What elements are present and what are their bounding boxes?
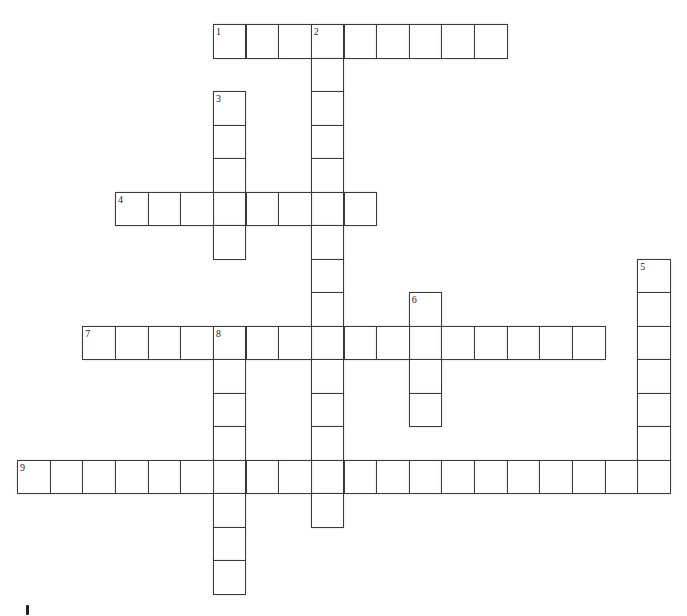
clue-number: 1 bbox=[216, 26, 221, 37]
crossword-cell[interactable] bbox=[344, 192, 378, 227]
crossword-cell[interactable] bbox=[213, 393, 247, 428]
crossword-cell[interactable]: 4 bbox=[115, 192, 149, 227]
crossword-cell[interactable] bbox=[376, 24, 410, 59]
crossword-cell[interactable] bbox=[311, 292, 345, 327]
crossword-cell[interactable] bbox=[507, 326, 541, 361]
crossword-cell[interactable] bbox=[637, 460, 671, 495]
clue-number: 4 bbox=[118, 194, 123, 205]
crossword-cell[interactable] bbox=[148, 460, 182, 495]
clue-number: 6 bbox=[412, 294, 417, 305]
crossword-cell[interactable]: 1 bbox=[213, 24, 247, 59]
crossword-cell[interactable] bbox=[311, 259, 345, 294]
crossword-cell[interactable] bbox=[311, 125, 345, 160]
crossword-cell[interactable] bbox=[637, 393, 671, 428]
crossword-cell[interactable] bbox=[344, 326, 378, 361]
crossword-cell[interactable] bbox=[539, 326, 573, 361]
clue-number: 7 bbox=[85, 328, 90, 339]
crossword-cell[interactable] bbox=[311, 393, 345, 428]
crossword-cell[interactable] bbox=[344, 24, 378, 59]
crossword-cell[interactable] bbox=[50, 460, 84, 495]
crossword-cell[interactable] bbox=[409, 24, 443, 59]
crossword-cell[interactable] bbox=[213, 125, 247, 160]
cropped-heading-mark bbox=[26, 605, 29, 615]
crossword-grid: 123456789 bbox=[0, 0, 687, 616]
crossword-cell[interactable] bbox=[148, 326, 182, 361]
clue-number: 9 bbox=[20, 462, 25, 473]
clue-number: 3 bbox=[216, 93, 221, 104]
crossword-cell[interactable] bbox=[180, 460, 214, 495]
crossword-cell[interactable] bbox=[213, 493, 247, 528]
crossword-cell[interactable] bbox=[82, 460, 116, 495]
crossword-cell[interactable]: 9 bbox=[17, 460, 51, 495]
crossword-cell[interactable] bbox=[474, 460, 508, 495]
crossword-cell[interactable] bbox=[213, 225, 247, 260]
crossword-cell[interactable] bbox=[441, 460, 475, 495]
crossword-cell[interactable] bbox=[311, 192, 345, 227]
crossword-cell[interactable]: 2 bbox=[311, 24, 345, 59]
crossword-cell[interactable] bbox=[311, 225, 345, 260]
crossword-cell[interactable]: 8 bbox=[213, 326, 247, 361]
crossword-cell[interactable] bbox=[474, 326, 508, 361]
crossword-cell[interactable] bbox=[278, 460, 312, 495]
crossword-cell[interactable] bbox=[213, 527, 247, 562]
crossword-cell[interactable] bbox=[148, 192, 182, 227]
crossword-cell[interactable] bbox=[278, 24, 312, 59]
crossword-cell[interactable] bbox=[311, 359, 345, 394]
crossword-cell[interactable] bbox=[278, 326, 312, 361]
crossword-cell[interactable] bbox=[409, 326, 443, 361]
crossword-cell[interactable]: 5 bbox=[637, 259, 671, 294]
crossword-cell[interactable] bbox=[605, 460, 639, 495]
crossword-cell[interactable] bbox=[441, 24, 475, 59]
crossword-cell[interactable] bbox=[180, 326, 214, 361]
crossword-cell[interactable] bbox=[246, 460, 280, 495]
crossword-cell[interactable]: 7 bbox=[82, 326, 116, 361]
crossword-cell[interactable] bbox=[311, 426, 345, 461]
crossword-cell[interactable] bbox=[441, 326, 475, 361]
crossword-cell[interactable] bbox=[572, 460, 606, 495]
crossword-cell[interactable] bbox=[507, 460, 541, 495]
crossword-cell[interactable] bbox=[637, 292, 671, 327]
crossword-cell[interactable] bbox=[246, 192, 280, 227]
crossword-cell[interactable] bbox=[311, 460, 345, 495]
crossword-cell[interactable] bbox=[409, 359, 443, 394]
clue-number: 8 bbox=[216, 328, 221, 339]
crossword-cell[interactable] bbox=[572, 326, 606, 361]
crossword-cell[interactable] bbox=[213, 158, 247, 193]
crossword-cell[interactable] bbox=[180, 192, 214, 227]
crossword-cell[interactable] bbox=[246, 326, 280, 361]
crossword-cell[interactable] bbox=[637, 426, 671, 461]
crossword-cell[interactable] bbox=[213, 560, 247, 595]
crossword-cell[interactable] bbox=[246, 24, 280, 59]
crossword-cell[interactable] bbox=[311, 326, 345, 361]
crossword-cell[interactable] bbox=[376, 460, 410, 495]
crossword-cell[interactable] bbox=[376, 326, 410, 361]
crossword-cell[interactable] bbox=[637, 359, 671, 394]
clue-number: 2 bbox=[314, 26, 319, 37]
crossword-cell[interactable] bbox=[311, 58, 345, 93]
crossword-cell[interactable] bbox=[213, 192, 247, 227]
crossword-cell[interactable] bbox=[539, 460, 573, 495]
crossword-cell[interactable] bbox=[213, 426, 247, 461]
crossword-cell[interactable] bbox=[409, 460, 443, 495]
crossword-cell[interactable] bbox=[311, 91, 345, 126]
crossword-cell[interactable]: 3 bbox=[213, 91, 247, 126]
crossword-cell[interactable] bbox=[311, 493, 345, 528]
crossword-cell[interactable] bbox=[474, 24, 508, 59]
crossword-cell[interactable] bbox=[213, 359, 247, 394]
crossword-cell[interactable] bbox=[278, 192, 312, 227]
crossword-cell[interactable]: 6 bbox=[409, 292, 443, 327]
crossword-cell[interactable] bbox=[213, 460, 247, 495]
crossword-cell[interactable] bbox=[115, 460, 149, 495]
crossword-cell[interactable] bbox=[344, 460, 378, 495]
crossword-cell[interactable] bbox=[115, 326, 149, 361]
crossword-cell[interactable] bbox=[637, 326, 671, 361]
crossword-cell[interactable] bbox=[311, 158, 345, 193]
crossword-cell[interactable] bbox=[409, 393, 443, 428]
clue-number: 5 bbox=[640, 261, 645, 272]
